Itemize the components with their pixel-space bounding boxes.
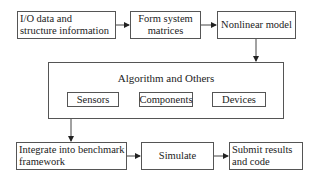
node-form-system-matrices-label: Form system matrices (138, 13, 193, 37)
node-form-system-matrices: Form system matrices (130, 11, 201, 39)
node-io-data: I/O data and structure information (17, 11, 116, 39)
node-nonlinear-model: Nonlinear model (217, 11, 296, 39)
node-submit-results-label: Submit results and code (232, 144, 292, 168)
node-nonlinear-model-label: Nonlinear model (221, 19, 292, 31)
node-simulate-label: Simulate (159, 150, 196, 162)
group-algorithm-title: Algorithm and Others (49, 72, 283, 84)
group-algorithm-and-others: Algorithm and Others (48, 62, 284, 119)
node-integrate-framework: Integrate into benchmark framework (16, 142, 127, 170)
node-integrate-framework-label: Integrate into benchmark framework (19, 144, 125, 168)
node-components: Components (139, 92, 193, 107)
node-submit-results: Submit results and code (229, 142, 303, 170)
node-devices-label: Devices (222, 94, 256, 106)
node-sensors-label: Sensors (77, 94, 110, 106)
node-io-data-label: I/O data and structure information (20, 13, 109, 37)
node-sensors: Sensors (67, 92, 119, 107)
node-devices: Devices (212, 92, 266, 107)
node-simulate: Simulate (141, 142, 214, 170)
node-components-label: Components (139, 94, 192, 106)
